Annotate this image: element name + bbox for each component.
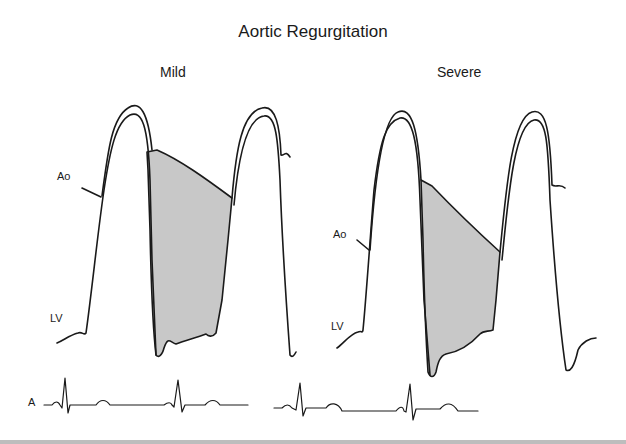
severe-regurgitation-area (421, 180, 500, 377)
mild-aorta-trace (102, 106, 152, 196)
mild-lv-trace (57, 114, 156, 355)
severe-lv-trace (337, 118, 430, 375)
mild-regurgitation-area (147, 150, 232, 356)
bottom-rule (0, 440, 626, 444)
pressure-tracing-diagram (0, 0, 626, 444)
ecg-mild (44, 378, 248, 413)
ecg-severe (274, 383, 478, 420)
